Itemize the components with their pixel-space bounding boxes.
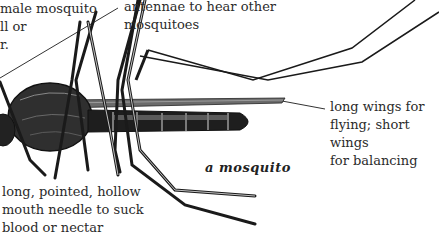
diagram-caption: a mosquito [205,160,291,175]
wing [60,98,285,108]
wings-label: long wings for flying; short wings for b… [330,98,439,170]
wings-leader-line [282,101,325,109]
abdomen [88,110,248,132]
proboscis-label: long, pointed, hollow mouth needle to su… [2,183,144,236]
antennae-label: antennae to hear other mosquitoes [124,0,276,34]
female-mosquito-note: male mosquito ll or r. [0,0,97,54]
